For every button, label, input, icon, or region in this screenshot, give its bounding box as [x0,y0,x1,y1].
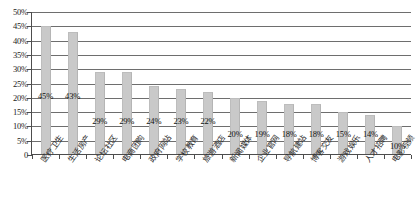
y-axis-tick [27,55,32,56]
y-axis-tick-label: 45% [0,22,28,30]
x-axis-tick [86,155,87,159]
gridline [32,12,411,13]
x-axis-tick [276,155,277,159]
x-axis-tick [194,155,195,159]
bar-value-label: 43% [60,91,86,101]
x-axis-tick [113,155,114,159]
y-axis-tick-label: 40% [0,37,28,45]
y-axis-tick-label: 15% [0,108,28,116]
y-axis-tick-label: 20% [0,94,28,102]
y-axis: 05%10%15%20%25%30%35%40%45%50% [0,12,30,154]
y-axis-tick-label: 30% [0,65,28,73]
bar-value-label: 29% [114,116,140,126]
gridline [32,112,411,113]
y-axis-tick-label: 35% [0,51,28,59]
bar-value-label: 22% [195,116,221,126]
y-axis-tick-label: 50% [0,8,28,16]
bar-value-label: 23% [168,116,194,126]
x-axis-tick [303,155,304,159]
gridline [32,41,411,42]
gridline [32,69,411,70]
y-axis-tick-label: 25% [0,80,28,88]
y-axis-tick [27,41,32,42]
x-axis-tick [384,155,385,159]
y-axis-tick [27,26,32,27]
y-axis-tick [27,98,32,99]
y-axis-tick-label: 10% [0,122,28,130]
y-axis-tick [27,112,32,113]
x-axis-tick [59,155,60,159]
gridline [32,98,411,99]
y-axis-tick [27,126,32,127]
y-axis-tick [27,141,32,142]
x-axis: 医疗卫生生活房产论坛社区电商团购政府网站学校教育旅游酒店新闻媒体企业官网导航建站… [0,158,414,212]
x-axis-tick [167,155,168,159]
gridline [32,84,411,85]
x-axis-tick [140,155,141,159]
y-axis-tick [27,69,32,70]
x-axis-tick [222,155,223,159]
bar-value-label: 24% [141,116,167,126]
x-axis-tick [330,155,331,159]
gridline [32,26,411,27]
x-axis-tick [411,155,412,159]
gridline [32,126,411,127]
x-axis-tick [357,155,358,159]
gridline [32,55,411,56]
y-axis-tick-label: 5% [0,137,28,145]
bar-value-label: 29% [87,116,113,126]
y-axis-tick [27,12,32,13]
x-axis-tick [32,155,33,159]
bar-value-label: 45% [33,91,59,101]
y-axis-tick [27,84,32,85]
x-axis-tick [249,155,250,159]
